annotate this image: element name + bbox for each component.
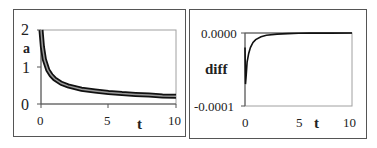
y-axis-label-diff: diff	[205, 62, 228, 77]
x-tick-0: 0	[242, 116, 249, 129]
y-tick-minus-0.0001: -0.0001	[194, 100, 234, 113]
x-tick-5: 5	[104, 114, 111, 127]
series-a-line	[41, 30, 176, 96]
y-axis-label-a: a	[23, 42, 30, 56]
chart-a-vs-t: 2 a 1 0 0 5 t 10	[0, 0, 189, 148]
x-tick-0: 0	[37, 114, 44, 127]
x-tick-10: 10	[168, 114, 181, 127]
y-tick-0: 0	[21, 97, 29, 113]
x-tick-10: 10	[343, 116, 356, 129]
series-diff-line	[245, 33, 352, 84]
y-tick-1: 1	[22, 60, 30, 76]
x-tick-5: 5	[296, 116, 303, 129]
x-axis-label-t: t	[137, 117, 142, 132]
y-tick-2: 2	[21, 22, 29, 38]
y-tick-0.0000: 0.0000	[201, 27, 237, 40]
chart-diff-vs-t: 0.0000 diff -0.0001 0 5 t 10	[188, 0, 377, 148]
x-axis-label-t: t	[314, 116, 319, 131]
